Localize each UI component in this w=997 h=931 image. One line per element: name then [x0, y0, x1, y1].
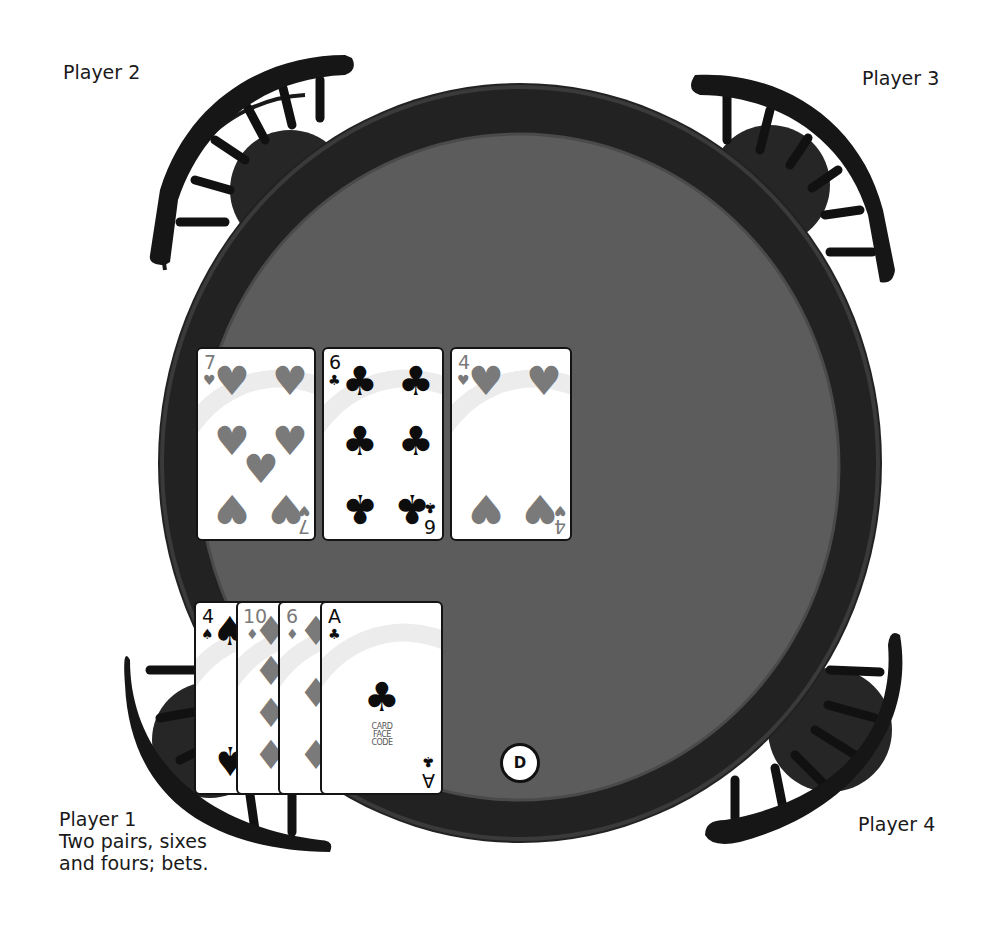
club-icon: ♣ — [362, 677, 402, 717]
player-1-status-line-2: and fours; bets. — [59, 852, 208, 874]
card-brand-logo: CARD FACE CODE — [369, 723, 395, 747]
club-icon: ♣ — [424, 501, 437, 515]
player-3-name: Player 3 — [862, 67, 939, 89]
heart-icon: ♥ — [212, 361, 252, 401]
dealer-button: D — [500, 743, 540, 783]
club-icon: ♣ — [396, 361, 436, 401]
heart-icon: ♥ — [466, 489, 506, 529]
player-2-label: Player 2 — [63, 61, 140, 83]
club-icon: ♣ — [396, 421, 436, 461]
player-1-status-line-1: Two pairs, sixes — [59, 830, 208, 852]
heart-icon: ♥ — [241, 449, 281, 489]
dealer-button-label: D — [514, 754, 526, 772]
card-rank: 7 — [298, 517, 310, 536]
community-card-3: 4 ♥ ♥ ♥ ♥ ♥ ♥ 4 — [450, 347, 572, 541]
heart-icon: ♥ — [466, 361, 506, 401]
player-4-name: Player 4 — [858, 813, 935, 835]
card-rank: 6 — [424, 517, 436, 536]
club-icon: ♣ — [422, 755, 435, 769]
club-icon: ♣ — [340, 421, 380, 461]
club-icon: ♣ — [328, 627, 341, 641]
heart-icon: ♥ — [524, 361, 564, 401]
player-3-label: Player 3 — [862, 67, 939, 89]
community-card-2: 6 ♣ ♣ ♣ ♣ ♣ ♣ ♣ ♣ 6 — [322, 347, 444, 541]
heart-icon: ♥ — [270, 361, 310, 401]
player-2-name: Player 2 — [63, 61, 140, 83]
player-1-name: Player 1 — [59, 808, 208, 830]
player-4-label: Player 4 — [858, 813, 935, 835]
heart-icon: ♥ — [212, 489, 252, 529]
card-rank: A — [422, 771, 435, 790]
community-card-1: 7 ♥ ♥ ♥ ♥ ♥ ♥ ♥ ♥ ♥ 7 — [196, 347, 316, 541]
player-1-label: Player 1 Two pairs, sixes and fours; bet… — [59, 808, 208, 874]
card-rank: A — [328, 607, 341, 626]
player-1-card-4[interactable]: A ♣ ♣ CARD FACE CODE ♣ A — [320, 601, 443, 795]
club-icon: ♣ — [340, 489, 380, 529]
club-icon: ♣ — [340, 361, 380, 401]
card-rank: 4 — [554, 517, 566, 536]
club-icon: ♣ — [328, 373, 341, 387]
